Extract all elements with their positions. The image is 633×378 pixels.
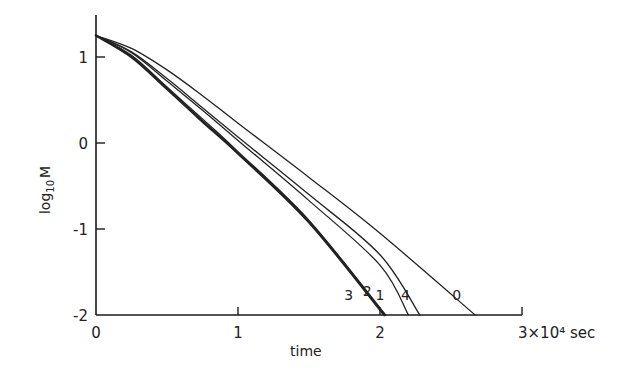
y-tick-label: 1 — [78, 49, 88, 67]
axes: -2-101 0123×10⁴ sec — [73, 15, 595, 342]
x-axis-title: time — [290, 343, 322, 359]
x-tick-label: 3×10⁴ sec — [518, 324, 595, 342]
x-tick-label: 0 — [91, 324, 101, 342]
x-tick-label: 2 — [375, 324, 385, 342]
curve-label-4: 4 — [401, 287, 410, 303]
curves — [96, 36, 475, 316]
curve-label-3: 3 — [344, 287, 353, 303]
y-tick-label: -1 — [73, 221, 88, 239]
curve-label-1: 1 — [376, 287, 385, 303]
x-ticks: 0123×10⁴ sec — [91, 307, 595, 342]
chart: -2-101 0123×10⁴ sec time log10M 32140 — [0, 0, 633, 378]
curve-3 — [96, 36, 384, 316]
y-axis-title: log10M — [37, 166, 56, 214]
y-tick-label: 0 — [78, 135, 88, 153]
curve-1 — [96, 36, 408, 316]
y-axis-title-log: log — [37, 193, 53, 214]
x-tick-label: 1 — [233, 324, 243, 342]
curve-2 — [96, 36, 386, 316]
curve-label-0: 0 — [452, 287, 461, 303]
y-axis-title-var: M — [37, 166, 53, 178]
curve-label-2: 2 — [363, 283, 372, 299]
y-tick-label: -2 — [73, 307, 88, 325]
y-ticks: -2-101 — [73, 49, 105, 325]
curve-4 — [96, 36, 420, 316]
y-axis-title-sub: 10 — [45, 180, 56, 193]
